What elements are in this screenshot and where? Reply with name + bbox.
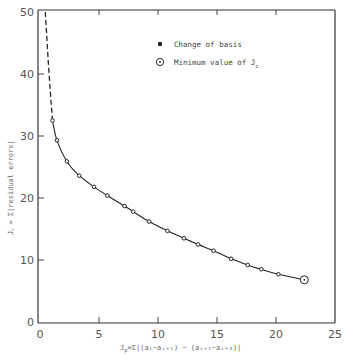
change-of-basis-curve xyxy=(53,121,305,280)
data-point-marker xyxy=(277,272,281,276)
y-tick-label: 0 xyxy=(27,316,34,329)
axis-ticks xyxy=(38,10,276,323)
data-point-marker xyxy=(229,257,233,261)
extrapolation-dashed-line xyxy=(45,12,52,121)
data-point-marker xyxy=(55,139,59,143)
data-point-marker xyxy=(212,249,216,253)
data-markers xyxy=(51,119,309,284)
data-point-marker xyxy=(92,185,96,189)
y-tick-label: 10 xyxy=(20,254,34,267)
data-series xyxy=(45,12,304,280)
y-axis-label: J꜀ = Σ|residual errors| xyxy=(7,140,15,235)
x-tick-label: 5 xyxy=(96,328,103,341)
x-tick-label: 25 xyxy=(328,328,342,341)
chart: 051015202501020304050 Change of basis Mi… xyxy=(0,0,355,364)
legend-label-minimum: Minimum value of Jc xyxy=(174,58,259,69)
y-tick-label: 50 xyxy=(20,6,34,19)
legend: Change of basis Minimum value of Jc xyxy=(156,40,258,69)
y-tick-label: 40 xyxy=(20,68,34,81)
x-tick-label: 10 xyxy=(151,328,165,341)
data-point-marker xyxy=(259,268,263,272)
legend-label-change-of-basis: Change of basis xyxy=(174,40,242,49)
data-point-marker xyxy=(166,229,170,233)
minimum-marker-center xyxy=(303,279,305,281)
x-tick-label: 20 xyxy=(269,328,283,341)
data-point-marker xyxy=(196,243,200,247)
data-point-marker xyxy=(65,160,69,164)
x-tick-label: 0 xyxy=(37,328,44,341)
data-point-marker xyxy=(123,204,127,208)
data-point-marker xyxy=(246,263,250,267)
legend-circle-center xyxy=(159,61,161,63)
y-tick-label: 30 xyxy=(20,130,34,143)
tick-labels: 051015202501020304050 xyxy=(20,6,342,341)
data-point-marker xyxy=(105,194,109,198)
legend-dot-marker xyxy=(158,42,162,46)
x-axis-label: Jp=Σ|(aᵢ−aᵢ₊₁) − (aᵢ₊₁−aᵢ₊₂)| xyxy=(120,344,241,354)
plot-frame xyxy=(38,10,335,323)
data-point-marker xyxy=(77,174,81,178)
data-point-marker xyxy=(147,220,151,224)
x-tick-label: 15 xyxy=(210,328,224,341)
y-tick-label: 20 xyxy=(20,192,34,205)
data-point-marker xyxy=(51,119,55,123)
data-point-marker xyxy=(182,237,186,241)
data-point-marker xyxy=(131,210,135,214)
